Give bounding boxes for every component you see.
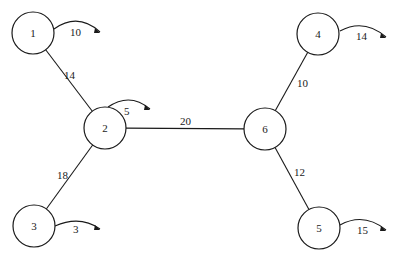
outflow-value-label: 15	[357, 224, 369, 236]
nodes-layer: 123456	[12, 12, 340, 249]
node-4: 4	[297, 13, 339, 55]
node-5: 5	[298, 207, 340, 249]
node-label: 2	[102, 122, 108, 134]
edge-2-3	[46, 145, 92, 209]
outflow-value-label: 5	[124, 105, 130, 117]
edge-weight-label: 14	[64, 69, 76, 81]
arrowhead-icon	[380, 226, 386, 231]
graph-diagram: 123456 141820101210531415	[0, 0, 395, 260]
edge-weight-label: 10	[297, 77, 309, 89]
edge-weight-label: 20	[180, 115, 192, 127]
node-1: 1	[12, 12, 54, 54]
arrowhead-icon	[94, 225, 100, 230]
node-3: 3	[13, 205, 55, 247]
edge-weight-label: 12	[294, 166, 305, 178]
arrowhead-icon	[380, 33, 386, 38]
outflow-value-label: 3	[73, 223, 79, 235]
node-label: 5	[316, 222, 322, 234]
edge-2-6	[126, 128, 244, 129]
outflow-value-label: 14	[356, 30, 368, 42]
edge-weight-label: 18	[57, 169, 69, 181]
outflow-value-label: 10	[70, 26, 82, 38]
node-label: 1	[30, 27, 36, 39]
node-2: 2	[84, 107, 126, 149]
arrowhead-icon	[144, 105, 150, 110]
node-label: 6	[262, 123, 268, 135]
node-label: 4	[315, 28, 321, 40]
node-6: 6	[244, 108, 286, 150]
node-label: 3	[31, 220, 37, 232]
edge-6-5	[275, 147, 309, 209]
